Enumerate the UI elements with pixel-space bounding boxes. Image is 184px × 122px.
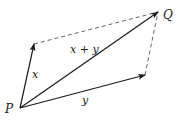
point-q-label: Q: [163, 8, 173, 22]
vector-y-label: y: [81, 94, 89, 107]
vector-sum-arrow: [20, 12, 158, 108]
dashed-edge-y-to-q: [145, 12, 158, 75]
point-p-label: P: [4, 102, 14, 116]
vector-sum-label: x + y: [70, 43, 99, 56]
vector-addition-diagram: P Q x y x + y: [0, 0, 184, 122]
dashed-edge-x-to-q: [34, 12, 158, 44]
vector-x-label: x: [32, 68, 39, 81]
